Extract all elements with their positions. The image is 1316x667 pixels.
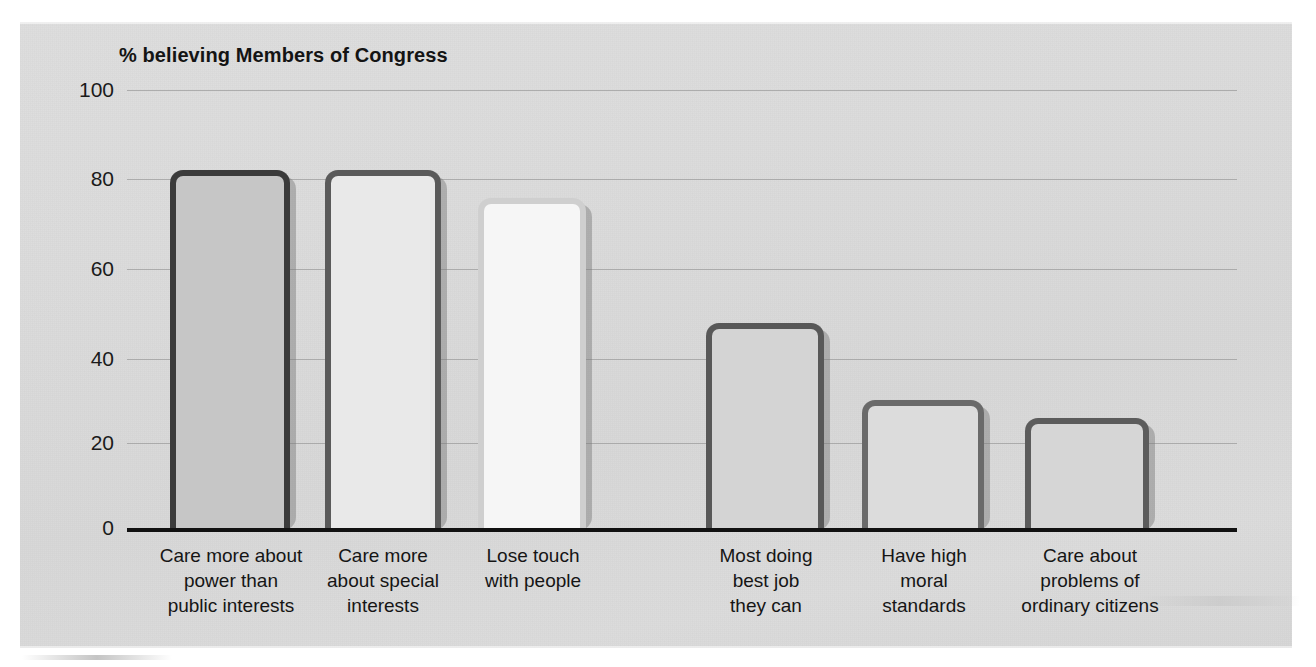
x-label-line: problems of: [990, 568, 1190, 593]
bar-chart: % believing Members of Congress 100 80 6…: [0, 0, 1316, 667]
bar-care-more-about-power[interactable]: [170, 170, 290, 530]
x-label-line: Care about: [990, 543, 1190, 568]
bar-lose-touch-with-people[interactable]: [478, 198, 586, 530]
x-label-care-more-special-interests: Care more about special interests: [295, 543, 471, 618]
x-label-line: Care more: [295, 543, 471, 568]
x-label-line: with people: [448, 568, 618, 593]
y-tick-label-40: 40: [44, 347, 114, 371]
x-label-line: about special: [295, 568, 471, 593]
bar-have-high-moral-standards[interactable]: [862, 400, 984, 530]
x-label-line: interests: [295, 593, 471, 618]
x-label-line: Have high: [838, 543, 1010, 568]
gridline-100: [127, 90, 1237, 91]
x-label-line: Lose touch: [448, 543, 618, 568]
bar-care-more-special-interests[interactable]: [325, 170, 441, 530]
x-label-line: Most doing: [678, 543, 854, 568]
x-label-line: moral: [838, 568, 1010, 593]
chart-title: % believing Members of Congress: [119, 44, 448, 67]
gridline-80: [127, 179, 1237, 180]
x-label-most-doing-best-job: Most doing best job they can: [678, 543, 854, 618]
y-tick-label-0: 0: [44, 516, 114, 540]
y-tick-label-20: 20: [44, 431, 114, 455]
y-tick-label-100: 100: [44, 78, 114, 102]
y-tick-label-80: 80: [44, 167, 114, 191]
bar-most-doing-best-job[interactable]: [706, 323, 824, 530]
x-label-line: they can: [678, 593, 854, 618]
x-label-line: ordinary citizens: [990, 593, 1190, 618]
x-label-line: best job: [678, 568, 854, 593]
x-axis-baseline: [127, 528, 1237, 532]
bar-care-about-ordinary-citizens[interactable]: [1025, 418, 1149, 530]
chart-screenshot: % believing Members of Congress 100 80 6…: [0, 0, 1316, 667]
x-label-line: standards: [838, 593, 1010, 618]
x-label-have-high-moral-standards: Have high moral standards: [838, 543, 1010, 618]
y-tick-label-60: 60: [44, 257, 114, 281]
x-label-care-about-ordinary-citizens: Care about problems of ordinary citizens: [990, 543, 1190, 618]
x-label-lose-touch-with-people: Lose touch with people: [448, 543, 618, 593]
